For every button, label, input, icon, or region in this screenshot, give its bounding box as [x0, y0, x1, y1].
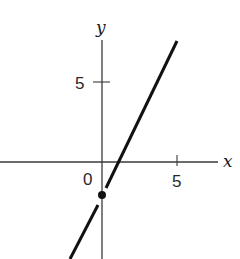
origin-label: 0 [83, 170, 92, 189]
function-line-lower [70, 205, 98, 259]
y-tick-label-5: 5 [75, 74, 84, 93]
function-line-upper [106, 41, 177, 188]
x-axis-label: x [223, 151, 233, 171]
y-intercept-dot [98, 191, 106, 199]
graph-canvas: y x 5 5 0 [0, 0, 240, 259]
y-axis-label: y [95, 17, 106, 37]
x-tick-label-5: 5 [172, 172, 181, 191]
